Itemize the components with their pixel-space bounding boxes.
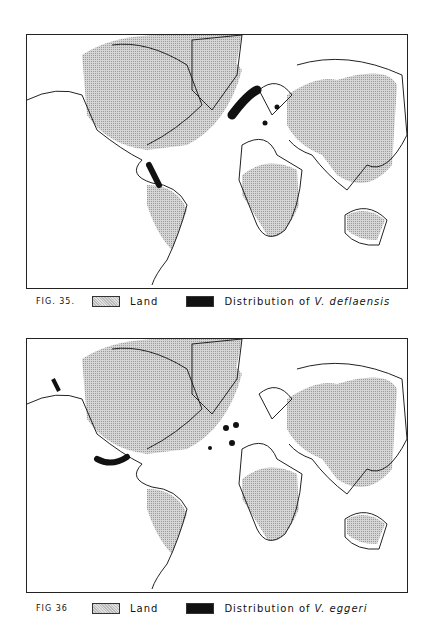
distribution-europe — [232, 90, 257, 115]
map-figure-35 — [26, 34, 408, 289]
land-label: Land — [130, 296, 158, 307]
distribution-swatch — [186, 603, 214, 614]
land-swatch — [92, 296, 120, 307]
land-swatch — [92, 603, 120, 614]
distribution-alaska — [53, 379, 59, 391]
figure-36-caption: FIG 36 Land Distribution of V. eggeri — [36, 600, 368, 616]
species-name: V. eggeri — [315, 603, 368, 614]
species-name: V. deflaensis — [315, 296, 391, 307]
map-figure-36 — [26, 338, 408, 593]
distribution-label: Distribution of — [224, 603, 310, 614]
figure-35-caption: FIG. 35. Land Distribution of V. deflaen… — [36, 293, 390, 309]
figure-number: FIG 36 — [36, 604, 92, 613]
world-map-distribution-eggeri — [27, 339, 408, 593]
world-map-distribution-deflaensis — [27, 35, 408, 289]
distribution-label: Distribution of — [224, 296, 310, 307]
distribution-north-america — [97, 457, 127, 463]
distribution-swatch — [186, 296, 214, 307]
land-label: Land — [130, 603, 158, 614]
figure-number: FIG. 35. — [36, 297, 92, 306]
